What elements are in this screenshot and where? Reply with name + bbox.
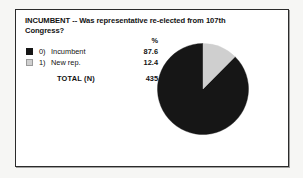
figure-frame: INCUMBENT -- Was representative re-elect… <box>15 9 289 167</box>
legend-item-label: Incumbent <box>51 46 86 57</box>
legend-item-index: 0) <box>39 46 46 57</box>
legend-item-value: 12.4 <box>126 57 158 68</box>
page-title: INCUMBENT -- Was representative re-elect… <box>25 16 240 36</box>
total-label: TOTAL (N) <box>57 73 95 84</box>
legend-item-index: 1) <box>39 57 46 68</box>
legend-item-value: 87.6 <box>126 46 158 57</box>
light-square-icon <box>26 59 33 66</box>
dark-square-icon <box>26 48 33 55</box>
pie-chart-svg <box>157 43 249 135</box>
percent-column-header: % <box>126 36 158 45</box>
legend-item-label: New rep. <box>51 57 81 68</box>
scanned-page: INCUMBENT -- Was representative re-elect… <box>0 0 303 178</box>
total-value: 435 <box>126 73 158 84</box>
pie-chart <box>157 43 249 135</box>
